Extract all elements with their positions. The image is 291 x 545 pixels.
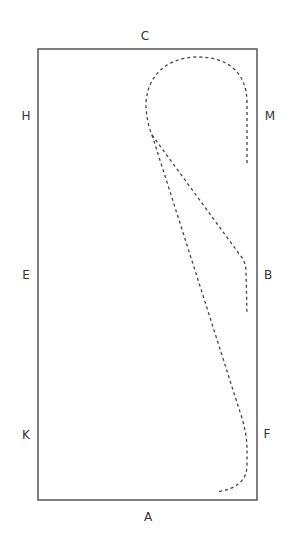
- dashed-path-loop-at-m: [146, 57, 247, 163]
- dashed-path-to-f: [152, 135, 247, 492]
- marker-f: F: [264, 428, 271, 440]
- marker-m: M: [265, 110, 275, 122]
- arena-diagram: C H M E B K F A: [0, 0, 291, 545]
- dashed-path-to-b: [152, 135, 247, 314]
- arena-boundary: [38, 49, 257, 500]
- marker-k: K: [22, 429, 30, 441]
- arena-svg: [0, 0, 291, 545]
- marker-h: H: [21, 110, 30, 122]
- marker-c: C: [141, 30, 149, 42]
- marker-e: E: [22, 269, 30, 281]
- marker-b: B: [264, 269, 272, 281]
- marker-a: A: [144, 511, 152, 523]
